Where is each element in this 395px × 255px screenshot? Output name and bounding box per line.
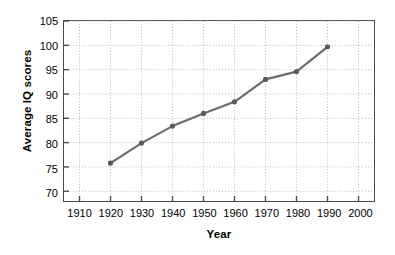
x-tick-label: 1920	[99, 207, 123, 219]
series-line	[111, 47, 328, 163]
x-tick-label: 1980	[286, 207, 310, 219]
plot-area: 7075808590951001051910192019301940195019…	[63, 20, 375, 202]
y-tick-label: 90	[46, 89, 58, 101]
x-tick-label: 1960	[223, 207, 247, 219]
x-tick-label: 1910	[67, 207, 91, 219]
x-axis-title: Year	[63, 228, 375, 240]
x-tick-label: 1930	[130, 207, 154, 219]
data-layer	[64, 21, 374, 201]
data-point-marker	[170, 124, 175, 129]
x-tick-label: 1940	[161, 207, 185, 219]
data-point-marker	[294, 69, 299, 74]
iq-scores-line-chart: Average IQ scores 7075808590951001051910…	[0, 0, 395, 255]
y-tick-label: 100	[40, 40, 58, 52]
data-point-marker	[139, 141, 144, 146]
y-tick-label: 95	[46, 64, 58, 76]
x-tick-label: 1990	[317, 207, 341, 219]
y-axis-title: Average IQ scores	[14, 0, 40, 202]
x-tick-label: 1970	[255, 207, 279, 219]
y-tick-label: 80	[46, 138, 58, 150]
data-point-marker	[325, 44, 330, 49]
data-point-marker	[232, 99, 237, 104]
x-tick-label: 2000	[348, 207, 372, 219]
y-tick-label: 70	[46, 187, 58, 199]
data-point-marker	[263, 77, 268, 82]
data-point-marker	[201, 111, 206, 116]
y-tick-label: 75	[46, 163, 58, 175]
x-tick-label: 1950	[192, 207, 216, 219]
y-tick-label: 105	[40, 15, 58, 27]
data-point-marker	[108, 160, 113, 165]
y-tick-label: 85	[46, 113, 58, 125]
